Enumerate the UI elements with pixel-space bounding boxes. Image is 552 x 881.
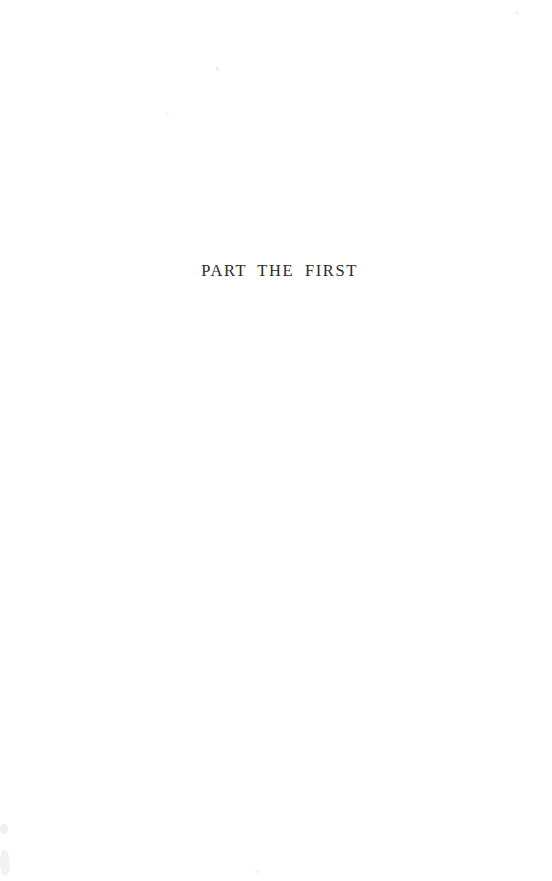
scan-speck	[0, 824, 8, 834]
scan-speck	[515, 11, 519, 15]
scan-speck	[165, 112, 169, 115]
part-title: PART THE FIRST	[0, 261, 552, 281]
scan-speck	[255, 870, 261, 873]
scan-speck	[0, 850, 10, 876]
scan-speck	[216, 66, 219, 71]
book-page: PART THE FIRST	[0, 0, 552, 881]
